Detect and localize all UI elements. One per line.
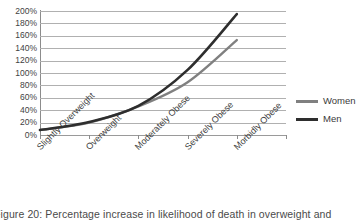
chart-legend: Women Men xyxy=(296,92,364,128)
legend-item-men: Men xyxy=(296,110,364,128)
legend-label-men: Men xyxy=(323,114,341,124)
figure-container: 0%20%40%60%80%100%120%140%160%180%200% S… xyxy=(0,0,364,220)
legend-swatch-men xyxy=(296,118,318,121)
series-line-men xyxy=(40,14,237,130)
legend-item-women: Women xyxy=(296,92,364,110)
legend-label-women: Women xyxy=(323,96,356,106)
legend-swatch-women xyxy=(296,100,318,103)
series-line-women xyxy=(40,40,237,130)
figure-caption-text: Figure 20: Percentage increase in likeli… xyxy=(0,209,331,220)
figure-caption: Figure 20: Percentage increase in likeli… xyxy=(0,209,364,220)
